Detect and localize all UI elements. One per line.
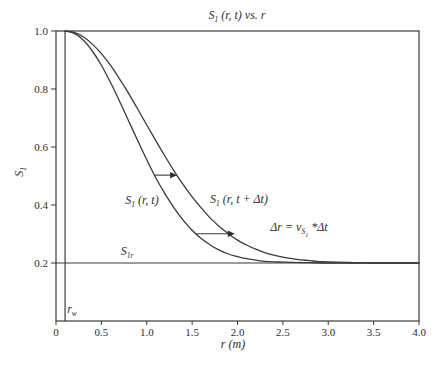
curve-label-s1-rt-plus-dt: S1 (r, t + Δt) [210, 193, 268, 205]
x-tick-label-4.0: 4.0 [412, 326, 426, 338]
rw-label-sub: w [72, 309, 77, 318]
x-axis-label: r (m) [221, 338, 245, 350]
y-axis-label-sub: 1 [19, 167, 28, 171]
x-tick-label-3.0: 3.0 [321, 326, 335, 338]
y-tick-label-0.6: 0.6 [34, 141, 48, 153]
y-tick-label-0.8: 0.8 [34, 83, 48, 95]
x-tick-label-1.0: 1.0 [140, 326, 154, 338]
plot-border [56, 31, 419, 321]
y-axis-label: S1 [13, 167, 25, 177]
delta-annotation-rest: *Δt [308, 220, 327, 234]
y-tick-label-1.0: 1.0 [34, 25, 48, 37]
x-tick-label-3.5: 3.5 [367, 326, 381, 338]
curve-s1-r-t [65, 31, 419, 263]
x-tick-label-0: 0 [53, 326, 59, 338]
y-tick-label-0.2: 0.2 [34, 257, 48, 269]
curve-s1-r-t-plus-dt [65, 31, 419, 263]
chart-title-rest: (r, t) vs. r [218, 8, 265, 22]
delta-annotation-main: Δr = v [270, 220, 301, 234]
x-tick-label-2.5: 2.5 [276, 326, 290, 338]
chart-title: S1 (r, t) vs. r [208, 9, 265, 21]
curve1-label-rest: (r, t) [135, 193, 159, 207]
curve-label-s1-rt: S1 (r, t) [125, 194, 158, 206]
figure-container: 00.51.01.52.02.53.03.54.00.20.40.60.81.0… [0, 0, 444, 368]
residual-saturation-label: S1r [121, 245, 134, 257]
curve2-label-rest: (r, t + Δt) [220, 192, 268, 206]
y-tick-label-0.4: 0.4 [34, 199, 48, 211]
x-tick-label-1.5: 1.5 [185, 326, 199, 338]
s1r-label-sub: 1r [127, 251, 134, 260]
delta-r-annotation: Δr = vS1 *Δt [270, 221, 327, 235]
delta-annotation-sub: S1 [301, 227, 308, 236]
y-axis-label-main: S [12, 171, 26, 177]
well-radius-label: rw [67, 303, 77, 315]
x-tick-label-0.5: 0.5 [95, 326, 109, 338]
